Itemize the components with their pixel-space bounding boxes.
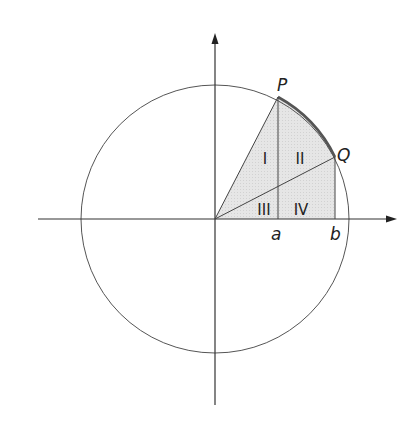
point-q-label: Q: [337, 145, 350, 165]
x-axis-arrow-icon: [386, 216, 397, 223]
region-i-label: I: [263, 150, 267, 168]
mark-a-label: a: [271, 224, 281, 244]
unit-circle-diagram: P Q a b I II III IV: [0, 0, 412, 431]
shaded-region: [215, 97, 335, 219]
region-iv-label: IV: [294, 201, 309, 219]
region-iii-label: III: [257, 201, 270, 219]
mark-b-label: b: [330, 224, 341, 244]
region-ii-label: II: [296, 150, 305, 168]
y-axis-arrow-icon: [212, 33, 219, 44]
point-p-label: P: [277, 75, 288, 95]
